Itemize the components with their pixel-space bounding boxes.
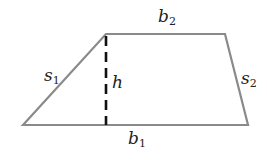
label-b1: b1 xyxy=(128,130,146,149)
label-s2: s2 xyxy=(241,70,257,89)
label-h: h xyxy=(112,74,123,91)
trapezoid-diagram: b2 b1 s1 s2 h xyxy=(0,0,267,161)
label-b2: b2 xyxy=(158,8,176,27)
label-s1: s1 xyxy=(44,67,60,86)
